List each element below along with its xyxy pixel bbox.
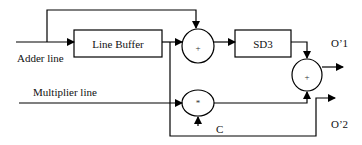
adder-line-label: Adder line [17, 53, 64, 64]
sd3-label: SD3 [235, 30, 291, 57]
adder1-symbol: + [182, 29, 214, 63]
adder2-symbol: + [292, 59, 322, 91]
constant-c-label: C [216, 124, 223, 135]
multiplier-line-label: Multiplier line [33, 87, 97, 98]
multiplier-to-adder2-wire [214, 92, 307, 103]
multiplier-symbol: * [182, 90, 214, 116]
o2-label: O’2 [331, 119, 348, 130]
sd3-to-adder2-wire [291, 42, 307, 58]
line-buffer-label: Line Buffer [74, 30, 162, 57]
o1-label: O’1 [331, 38, 348, 49]
